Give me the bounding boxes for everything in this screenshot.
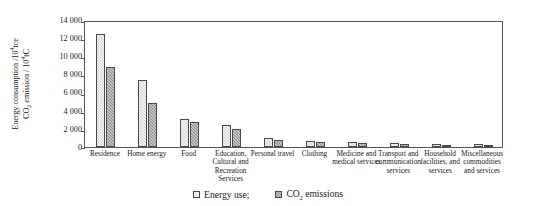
bar-group [211,22,253,147]
y-axis-exponent-2: 4 [20,57,26,60]
bar-co2-emissions [316,142,325,147]
plot-area [84,21,503,148]
y-tick-label: 10 000 [59,53,82,61]
bar-energy-use [180,119,189,147]
chart-legend: Energy use; CO2 emissions [0,186,536,202]
bar-group [378,22,420,147]
bar-co2-emissions [442,145,451,147]
y-tick-mark [81,148,85,149]
y-axis-title-line-1: Energy consumption /104tce [9,38,20,130]
legend-item-co2-emissions: CO2 emissions [275,188,343,201]
bar-energy-use [306,141,315,147]
bar-energy-use [96,34,105,147]
y-tick-label: 6 000 [64,89,82,97]
bar-group [295,22,337,147]
y-tick-label: 12 000 [59,35,82,43]
bar-co2-emissions [232,129,241,147]
bar-energy-use [138,80,147,147]
x-category-label: Miscellaneous commodities and services [457,150,507,175]
legend-item-energy-use: Energy use; [193,189,249,200]
legend-label-co2: CO2 emissions [286,188,343,201]
bar-energy-use [264,138,273,147]
y-axis-exponent-1: 4 [9,48,15,51]
y-tick-label: 4 000 [64,108,82,116]
bar-energy-use [348,142,357,147]
bar-group [462,22,504,147]
bar-co2-emissions [484,145,493,147]
bar-group [127,22,169,147]
bar-energy-use [474,144,483,147]
y-tick-label: 8 000 [64,71,82,79]
bar-co2-emissions [274,140,283,147]
bar-energy-use [432,144,441,147]
bar-group [85,22,127,147]
bar-co2-emissions [148,103,157,147]
y-tick-label: 2 000 [64,126,82,134]
bar-co2-emissions [400,144,409,147]
y-axis-tick-labels: 02 0004 0006 0008 00010 00012 00014 000 [40,0,82,206]
legend-swatch-energy-icon [193,191,200,198]
y-axis-title-line-2: CO2 emission / 104tC [20,49,33,119]
bar-chart-figure: Energy consumption /104tce CO2 emission … [0,0,536,206]
co2-subscript: 2 [26,105,32,108]
bar-co2-emissions [106,67,115,147]
bar-group [420,22,462,147]
y-tick-label: 14 000 [59,17,82,25]
y-axis-title: Energy consumption /104tce CO2 emission … [8,18,34,150]
bar-co2-emissions [358,143,367,147]
bar-co2-emissions [190,122,199,147]
legend-swatch-co2-icon [275,191,282,198]
bar-group [336,22,378,147]
bar-group [169,22,211,147]
bar-group [253,22,295,147]
legend-label-energy: Energy use; [204,189,249,200]
bar-energy-use [222,125,231,147]
bar-energy-use [390,143,399,147]
